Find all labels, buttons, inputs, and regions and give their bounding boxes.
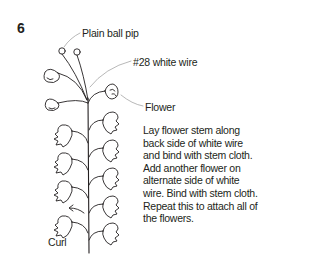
bell-flower-icon xyxy=(89,196,119,218)
flower-leader-line xyxy=(121,95,143,106)
bell-flower-icon xyxy=(54,216,88,238)
bell-flower-icon xyxy=(54,181,88,203)
bell-flower-icon xyxy=(89,140,119,162)
bell-flower-icon xyxy=(44,69,60,82)
curl-arrow-icon xyxy=(69,205,84,213)
pip-label: Plain ball pip xyxy=(82,27,139,39)
instructions-paragraph: Lay flower stem along back side of white… xyxy=(143,124,261,225)
bell-flower-icon xyxy=(54,125,88,147)
pip-leader-line xyxy=(64,33,80,47)
leader-lines xyxy=(64,33,143,106)
main-stem-icon xyxy=(88,98,89,253)
flower-label: Flower xyxy=(145,101,175,113)
bell-flower-icon xyxy=(45,99,59,111)
curl-label: Curl xyxy=(48,236,66,248)
bell-flower-icon xyxy=(89,223,119,245)
bell-flower-icon xyxy=(89,168,119,190)
wire-label: #28 white wire xyxy=(133,56,197,68)
bell-flower-icon xyxy=(54,153,88,175)
bell-flower-icon xyxy=(89,112,119,134)
bell-flower-icon xyxy=(105,84,118,99)
wire-leader-line xyxy=(90,61,131,87)
